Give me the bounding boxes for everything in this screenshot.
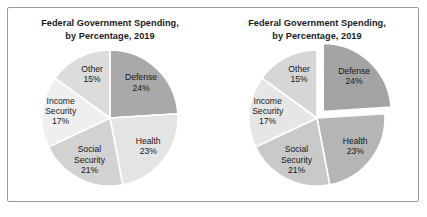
pie-label-health: 23% (347, 146, 365, 156)
figure-root: Federal Government Spending, by Percenta… (0, 0, 427, 217)
pie-label-income-security: Security (45, 106, 77, 116)
chart-title-standard: Federal Government Spending, by Percenta… (7, 17, 213, 42)
pie-label-income-security: 17% (259, 116, 277, 126)
pie-label-income-security: Income (254, 96, 282, 106)
chart-title-exploded: Federal Government Spending, by Percenta… (214, 17, 420, 42)
pie-label-social-security: Social (78, 144, 101, 154)
pie-label-social-security: 21% (81, 165, 99, 175)
pie-label-social-security: Security (281, 155, 313, 165)
pie-label-health: 23% (140, 146, 158, 156)
pie-label-other: Other (288, 64, 310, 74)
pie-label-income-security: Security (252, 106, 284, 116)
pie-chart-exploded: Defense24%Health23%SocialSecurity21%Inco… (214, 43, 420, 195)
pie-label-health: Health (343, 136, 368, 146)
pie-label-defense: Defense (125, 72, 157, 82)
pie-label-defense: 24% (346, 76, 364, 86)
pie-label-defense: 24% (132, 83, 150, 93)
pie-label-other: 15% (83, 74, 101, 84)
pie-label-income-security: Income (47, 96, 75, 106)
pie-label-income-security: 17% (52, 116, 70, 126)
chart-panel-exploded: Federal Government Spending, by Percenta… (214, 7, 420, 202)
pie-label-social-security: Social (285, 144, 308, 154)
pie-label-social-security: 21% (288, 165, 306, 175)
pie-label-other: 15% (290, 74, 308, 84)
pie-label-health: Health (136, 136, 161, 146)
pie-container-exploded: Defense24%Health23%SocialSecurity21%Inco… (214, 43, 420, 195)
chart-panel-standard: Federal Government Spending, by Percenta… (7, 7, 213, 202)
pie-container-standard: Defense24%Health23%SocialSecurity21%Inco… (7, 43, 213, 195)
pie-chart-standard: Defense24%Health23%SocialSecurity21%Inco… (7, 43, 213, 195)
pie-label-defense: Defense (338, 66, 370, 76)
pie-label-other: Other (81, 64, 103, 74)
pie-label-social-security: Security (74, 155, 106, 165)
